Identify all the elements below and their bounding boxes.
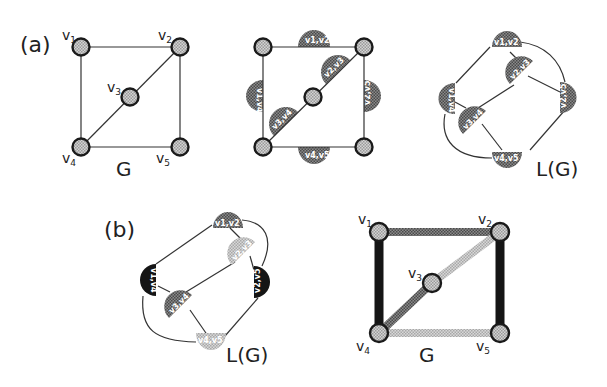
mid-vertex-v5	[356, 139, 373, 156]
gb-vertex-v3	[423, 274, 441, 292]
lgb-edge-v1v2-v1v4	[156, 225, 212, 264]
gb-label-v5: v5	[476, 338, 490, 356]
lgb-label-v2v5: v2,v5	[253, 268, 262, 293]
lgb-edge-v2v3-v3v4	[186, 262, 235, 292]
vertex-v2	[172, 39, 189, 56]
lg-label-v1v4: v1,v4	[447, 88, 456, 113]
gb-edge-v3-v4	[379, 283, 432, 333]
lg-label-v2v5: v2,v5	[559, 83, 568, 108]
lgb-edge-v1v2-v2v3	[230, 228, 240, 238]
mid-vertex-v2	[356, 39, 373, 56]
gb-vertex-v5	[491, 324, 509, 342]
halfdisk-label-v1v2: v1,v2	[305, 36, 330, 45]
vertex-v4	[73, 139, 90, 156]
mid-vertex-v1	[255, 39, 272, 56]
vertex-label-v2: v2	[158, 27, 172, 45]
lg-label-v1v2: v1,v2	[494, 38, 519, 47]
lgb-edge-v1v4-v3v4	[158, 286, 170, 292]
lgb-label-v4v5: v4,v5	[198, 336, 223, 345]
graph-g-a: v1 v2 v3 v4 v5 G	[62, 27, 189, 181]
mid-vertex-v3	[305, 89, 322, 106]
graph-edge-nodes: v1,v2 v4,v5 v1,v4 v2,v5 v3,v4 v2,v3	[246, 30, 381, 164]
gb-vertex-v1	[370, 223, 388, 241]
vertex-label-v3: v3	[107, 79, 121, 97]
gb-label-v4: v4	[356, 338, 370, 356]
vertex-label-v1: v1	[62, 27, 76, 45]
gb-vertex-v4	[370, 324, 388, 342]
lg-edge-v2v3-v3v4	[478, 85, 514, 108]
graph-g-b: v1 v2 v3 v4 v5 G	[356, 211, 509, 367]
lg-edge-v3v4-v4v5	[482, 124, 502, 150]
line-graph-a: v1,v2 v2,v3 v1,v4 v3,v4 v2,v5 v4,v5 L(G)	[438, 31, 578, 181]
lg-edge-v2v3-v2v5	[528, 76, 560, 92]
gb-label-v1: v1	[358, 211, 372, 229]
gb-edge-v2-v3	[432, 232, 500, 283]
graph-label-lg-a: L(G)	[536, 157, 578, 181]
gb-vertex-v2	[491, 223, 509, 241]
line-graph-b: v1,v2 v2,v3 v1,v4 v3,v4 v2,v5 v4,v5 L(G)	[140, 212, 270, 367]
graph-label-lg-b: L(G)	[226, 343, 268, 367]
lgb-label-v1v4: v1,v4	[149, 268, 158, 293]
mid-vertex-v4	[255, 139, 272, 156]
lg-edge-v1v2-v1v4	[456, 47, 490, 83]
vertex-v3	[122, 89, 139, 106]
gb-label-v3: v3	[408, 265, 422, 283]
graph-label-g: G	[116, 157, 132, 181]
panel-a-label: (a)	[20, 32, 51, 57]
line-graph-figure: (a) v1 v2 v3 v4 v5 G v1,v2 v4,v5 v1,v4 v…	[0, 0, 607, 387]
lg-edge-v2v5-v4v5	[530, 110, 565, 150]
vertex-label-v5: v5	[156, 150, 170, 168]
lgb-edge-v3v4-v4v5	[190, 310, 208, 336]
lgb-edge-v2v3-v2v5	[250, 256, 254, 270]
lgb-edge-v2v5-v4v5	[225, 298, 258, 336]
lgb-label-v1v2: v1,v2	[215, 219, 240, 228]
gb-label-v2: v2	[478, 211, 492, 229]
panel-b-label: (b)	[104, 217, 135, 242]
graph-label-g-b: G	[419, 343, 435, 367]
lg-label-v4v5: v4,v5	[494, 154, 519, 163]
vertex-v5	[172, 139, 189, 156]
halfdisk-label-v4v5: v4,v5	[305, 151, 330, 160]
